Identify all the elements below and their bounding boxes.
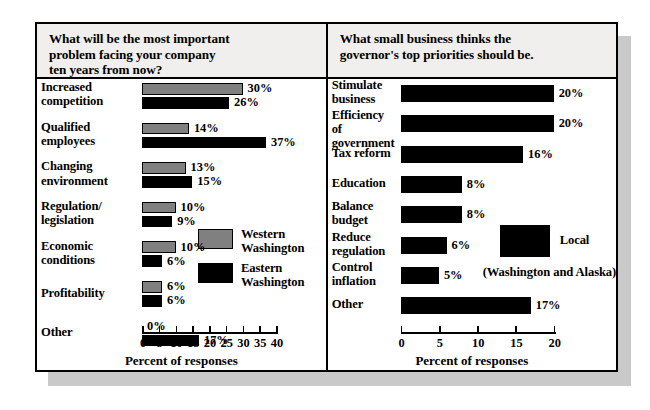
x-axis-tick-label: 5 xyxy=(437,336,443,351)
category-label-line: business xyxy=(332,92,397,106)
category-label-line: Other xyxy=(332,297,397,311)
category-label: Economicconditions xyxy=(41,239,138,267)
right-chart-panel: What small business thinks the governor'… xyxy=(328,24,616,370)
legend-swatch-eastern xyxy=(198,263,233,283)
bar xyxy=(142,97,229,109)
legend-swatch-local xyxy=(500,225,550,257)
x-axis-tick-label: 40 xyxy=(271,336,283,351)
bar xyxy=(142,162,186,174)
x-axis-title: Percent of responses xyxy=(328,353,616,369)
category-label: Tax reform xyxy=(332,146,397,160)
category-label-line: legislation xyxy=(41,213,138,227)
left-chart-plot: Western Washington Eastern Washington In… xyxy=(37,79,326,372)
category-label: Changingenvironment xyxy=(41,159,138,187)
category-label: Reduceregulation xyxy=(332,230,397,258)
right-panel-title: What small business thinks the governor'… xyxy=(328,24,616,79)
x-axis-tick-label: 25 xyxy=(221,336,233,351)
x-axis-tick xyxy=(209,326,211,332)
category-label-line: employees xyxy=(41,134,138,148)
category-label-line: Reduce xyxy=(332,230,397,244)
category-label-line: Increased xyxy=(41,80,138,94)
bar xyxy=(401,146,523,163)
category-label: Education xyxy=(332,176,397,190)
bar-value-label: 8% xyxy=(467,177,486,192)
category-label-line: competition xyxy=(41,94,138,108)
bar xyxy=(142,255,162,267)
right-title-line-1: What small business thinks the xyxy=(340,31,606,47)
category-label: Other xyxy=(41,325,138,339)
category-label-line: budget xyxy=(332,213,397,227)
x-axis-tick xyxy=(477,326,479,332)
x-axis-tick xyxy=(192,326,194,332)
category-label-line: environment xyxy=(41,174,138,188)
x-axis-line xyxy=(401,332,556,334)
category-label-line: Education xyxy=(332,176,397,190)
legend-eastern-line-2: Washington xyxy=(241,275,304,289)
x-axis-tick xyxy=(159,326,161,332)
category-label-line: regulation xyxy=(332,244,397,258)
x-axis-tick-label: 10 xyxy=(472,336,484,351)
bar-value-label: 17% xyxy=(536,298,561,313)
x-axis-tick-label: 15 xyxy=(187,336,199,351)
category-label-line: Profitability xyxy=(41,286,138,300)
category-label: Qualifiedemployees xyxy=(41,120,138,148)
bar xyxy=(142,241,176,253)
bar-value-label: 20% xyxy=(559,86,584,101)
bar xyxy=(401,176,462,193)
x-axis-tick xyxy=(226,326,228,332)
left-title-line-3: ten years from now? xyxy=(49,62,316,78)
bar xyxy=(401,206,462,223)
x-axis-tick-label: 10 xyxy=(170,336,182,351)
category-label: Regulation/legislation xyxy=(41,199,138,227)
x-axis-tick-label: 0 xyxy=(140,336,146,351)
x-axis-tick xyxy=(515,326,517,332)
left-title-line-1: What will be the most important xyxy=(49,31,316,47)
bar xyxy=(401,267,439,284)
x-axis-tick xyxy=(142,326,144,332)
category-label-line: inflation xyxy=(332,274,397,288)
category-label-line: Efficiency of xyxy=(332,108,397,136)
bar xyxy=(142,123,189,135)
x-axis-tick-label: 30 xyxy=(237,336,249,351)
category-label-line: Regulation/ xyxy=(41,199,138,213)
legend-label-eastern: Eastern Washington xyxy=(241,261,304,289)
bar-value-label: 20% xyxy=(559,116,584,131)
category-label-line: conditions xyxy=(41,253,138,267)
bar-value-label: 8% xyxy=(467,207,486,222)
category-label-line: Tax reform xyxy=(332,146,397,160)
category-label-line: Balance xyxy=(332,199,397,213)
bar-value-label: 9% xyxy=(177,214,196,229)
bar-value-label: 6% xyxy=(167,293,186,308)
category-label-line: Stimulate xyxy=(332,78,397,92)
bar xyxy=(401,115,554,132)
x-axis-tick xyxy=(243,326,245,332)
category-label-line: Qualified xyxy=(41,120,138,134)
figure-frame: What will be the most important problem … xyxy=(35,22,618,372)
left-chart-panel: What will be the most important problem … xyxy=(37,24,328,370)
x-axis-tick-label: 5 xyxy=(157,336,163,351)
bar-value-label: 5% xyxy=(444,268,463,283)
x-axis-tick xyxy=(276,326,278,332)
legend-label-local: Local xyxy=(560,233,590,247)
category-label-line: Other xyxy=(41,325,138,339)
x-axis-line xyxy=(142,332,278,334)
legend-western-line-2: Washington xyxy=(241,241,304,255)
x-axis-title: Percent of responses xyxy=(37,353,326,369)
right-title-line-2: governor's top priorities should be. xyxy=(340,47,606,63)
category-label: Other xyxy=(332,297,397,311)
category-label: Profitability xyxy=(41,286,138,300)
bar xyxy=(401,297,531,314)
bar xyxy=(142,216,172,228)
category-label: Increasedcompetition xyxy=(41,80,138,108)
category-label-line: Control xyxy=(332,260,397,274)
bar xyxy=(142,83,243,95)
category-label: Efficiency ofgovernment xyxy=(332,108,397,150)
bar xyxy=(142,137,266,149)
x-axis-tick-label: 35 xyxy=(254,336,266,351)
legend-eastern-line-1: Eastern xyxy=(241,261,304,275)
right-chart-plot: Local (Washington and Alaska) Stimulateb… xyxy=(328,79,616,372)
bar-value-label: 6% xyxy=(167,254,186,269)
legend-western-line-1: Western xyxy=(241,227,304,241)
bar xyxy=(142,295,162,307)
category-label-line: Economic xyxy=(41,239,138,253)
